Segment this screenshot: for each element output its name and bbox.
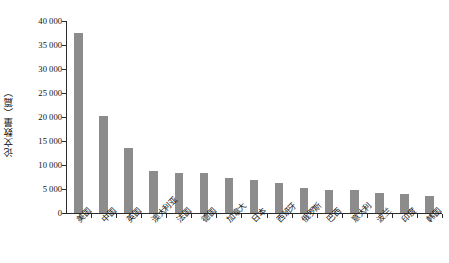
y-axis-tick-label: 25 000 <box>14 89 62 98</box>
bar <box>250 180 259 213</box>
bar <box>225 178 234 213</box>
y-axis-tick-label: 0 <box>14 209 62 218</box>
x-axis-tick-mark <box>442 214 443 218</box>
bar <box>99 116 108 213</box>
bar <box>275 183 284 213</box>
y-axis-tick-label: 40 000 <box>14 17 62 26</box>
y-axis-line <box>66 21 67 214</box>
y-axis-tick-label: 5 000 <box>14 185 62 194</box>
bar <box>175 173 184 213</box>
y-axis-tick-label: 30 000 <box>14 65 62 74</box>
y-axis-tick-mark <box>62 189 66 190</box>
y-axis-tick-mark <box>62 21 66 22</box>
y-axis-tick-mark <box>62 165 66 166</box>
bar <box>74 33 83 213</box>
plot-area <box>66 21 442 214</box>
bar <box>200 173 209 213</box>
y-axis-tick-label: 20 000 <box>14 113 62 122</box>
y-axis-tick-mark <box>62 117 66 118</box>
bar-chart: 论文数量（篇） 40 00035 00030 00025 00020 00015… <box>0 0 449 263</box>
y-axis-tick-label: 15 000 <box>14 137 62 146</box>
y-axis-tick-labels: 40 00035 00030 00025 00020 00015 00010 0… <box>14 0 62 263</box>
y-axis-tick-mark <box>62 141 66 142</box>
x-axis-tick-labels: 美国中国英国澳大利亚法国德国加拿大日本西班牙俄罗斯巴西意大利波兰印度韩国 <box>66 214 442 263</box>
y-axis-tick-mark <box>62 93 66 94</box>
bar <box>124 148 133 213</box>
y-axis-tick-label: 35 000 <box>14 41 62 50</box>
y-axis-tick-label: 10 000 <box>14 161 62 170</box>
y-axis-tick-mark <box>62 69 66 70</box>
bar <box>149 171 158 213</box>
y-axis-tick-mark <box>62 45 66 46</box>
